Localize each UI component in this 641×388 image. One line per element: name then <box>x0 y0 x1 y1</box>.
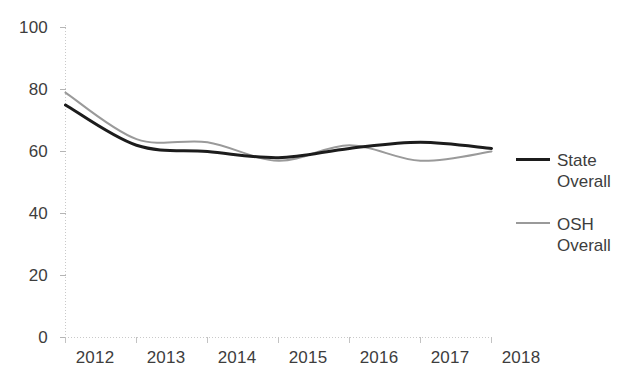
legend-item-state-overall: State Overall <box>516 150 636 192</box>
x-tick-label-2013: 2013 <box>136 349 196 366</box>
x-tick-label-2016: 2016 <box>349 349 409 366</box>
y-tick-label-80: 80 <box>2 81 48 98</box>
legend-swatch-line-icon-state <box>516 150 550 168</box>
legend-item-osh-overall: OSH Overall <box>516 214 636 256</box>
x-tick-label-2017: 2017 <box>420 349 480 366</box>
series-line-osh-overall <box>66 93 492 161</box>
legend-swatch-line-icon-osh <box>516 214 550 232</box>
series-line-state-overall <box>66 105 492 158</box>
x-axis-ticks <box>66 337 492 343</box>
chart-legend: State Overall OSH Overall <box>516 150 636 278</box>
y-tick-label-20: 20 <box>2 267 48 284</box>
x-tick-label-2014: 2014 <box>207 349 267 366</box>
x-tick-label-2012: 2012 <box>65 349 125 366</box>
y-tick-label-0: 0 <box>2 329 48 346</box>
x-tick-label-2018: 2018 <box>491 349 551 366</box>
y-tick-label-40: 40 <box>2 205 48 222</box>
x-tick-label-2015: 2015 <box>278 349 338 366</box>
legend-label-state-overall: State Overall <box>557 150 611 192</box>
y-tick-label-100: 100 <box>2 19 48 36</box>
line-chart: 100 80 60 40 20 0 2012 2013 2014 2015 20… <box>0 0 641 388</box>
legend-label-osh-overall: OSH Overall <box>557 214 611 256</box>
y-tick-label-60: 60 <box>2 143 48 160</box>
